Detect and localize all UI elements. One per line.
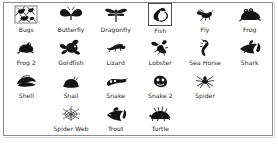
clipart-item-label: Frog <box>243 26 256 34</box>
clipart-item-label: Bugs <box>19 26 34 34</box>
bugs-icon <box>13 4 39 25</box>
clipart-item-label: Spider <box>195 92 215 100</box>
clipart-item-shell[interactable]: Shell <box>4 69 49 102</box>
clipart-item-spider-web[interactable]: Spider Web <box>49 102 94 135</box>
clipart-item-label: Lobster <box>149 59 172 67</box>
clipart-item-lizard[interactable]: Lizard <box>93 36 138 69</box>
clipart-item-label: Butterfly <box>58 26 85 34</box>
clipart-item-trout[interactable]: Trout <box>93 102 138 135</box>
clipart-item-lobster[interactable]: Lobster <box>138 36 183 69</box>
clipart-item-sea-horse[interactable]: Sea Horse <box>183 36 228 69</box>
butterfly-icon <box>58 4 84 25</box>
fly-icon <box>192 4 218 25</box>
clipart-item-bugs[interactable]: Bugs <box>4 3 49 36</box>
clipart-item-label: Snake 2 <box>148 92 173 100</box>
clipart-item-spider[interactable]: Spider <box>183 69 228 102</box>
clipart-item-label: Turtle <box>152 125 169 133</box>
frog-2-icon <box>13 37 39 58</box>
fish-icon <box>148 3 172 26</box>
clipart-item-snake-2[interactable]: Snake 2 <box>138 69 183 102</box>
goldfish-icon <box>58 37 84 58</box>
clipart-item-label: Trout <box>108 125 123 133</box>
clipart-item-goldfish[interactable]: Goldfish <box>49 36 94 69</box>
sea-horse-icon <box>192 37 218 58</box>
clipart-row: BugsButterflyDragonflyFishFlyFrog <box>4 3 272 36</box>
clipart-item-butterfly[interactable]: Butterfly <box>49 3 94 36</box>
clipart-item-fly[interactable]: Fly <box>183 3 228 36</box>
clipart-row: ShellSnailSnakeSnake 2Spider <box>4 69 272 102</box>
clipart-item-turtle[interactable]: Turtle <box>138 102 183 135</box>
shark-icon <box>237 37 263 58</box>
clipart-item-label: Snake <box>106 92 125 100</box>
clipart-item-dragonfly[interactable]: Dragonfly <box>93 3 138 36</box>
dragonfly-icon <box>103 4 129 25</box>
clipart-item-label: Fly <box>201 26 210 34</box>
turtle-icon <box>147 103 173 124</box>
clipart-item-label: Spider Web <box>53 125 88 133</box>
spider-web-icon <box>58 103 84 124</box>
snake-2-icon <box>147 70 173 91</box>
frog-icon <box>237 4 263 25</box>
clipart-item-label: Snail <box>63 92 78 100</box>
clipart-item-label: Lizard <box>106 59 125 67</box>
clipart-grid: BugsButterflyDragonflyFishFlyFrogFrog 2G… <box>4 3 272 135</box>
clipart-item-label: Frog 2 <box>17 59 36 67</box>
shell-icon <box>13 70 39 91</box>
clipart-item-label: Fish <box>154 27 166 35</box>
snail-icon <box>58 70 84 91</box>
clipart-row: Frog 2GoldfishLizardLobsterSea HorseShar… <box>4 36 272 69</box>
clipart-item-snail[interactable]: Snail <box>49 69 94 102</box>
clipart-item-fish[interactable]: Fish <box>138 3 183 36</box>
clipart-item-frog[interactable]: Frog <box>227 3 272 36</box>
clipart-item-label: Goldfish <box>58 59 83 67</box>
clipart-row: Spider WebTroutTurtle <box>4 102 272 135</box>
clipart-gallery-panel[interactable]: BugsButterflyDragonflyFishFlyFrogFrog 2G… <box>3 2 273 136</box>
clipart-item-label: Shell <box>19 92 34 100</box>
lizard-icon <box>103 37 129 58</box>
clipart-item-label: Dragonfly <box>101 26 131 34</box>
lobster-icon <box>147 37 173 58</box>
clipart-item-label: Shark <box>241 59 259 67</box>
clipart-item-label: Sea Horse <box>189 59 220 67</box>
snake-icon <box>103 70 129 91</box>
clipart-item-snake[interactable]: Snake <box>93 69 138 102</box>
spider-icon <box>192 70 218 91</box>
clipart-item-shark[interactable]: Shark <box>227 36 272 69</box>
trout-icon <box>103 103 129 124</box>
clipart-item-frog-2[interactable]: Frog 2 <box>4 36 49 69</box>
